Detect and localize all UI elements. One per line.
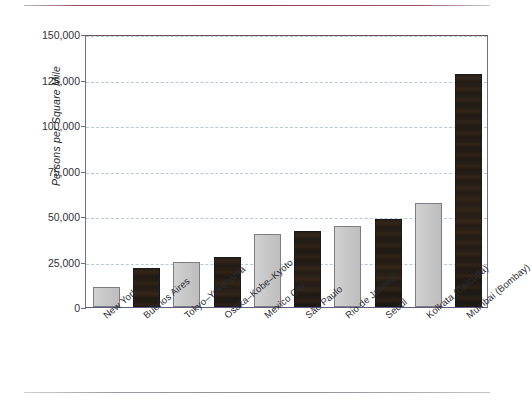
y-axis-tick-label: 150,000 <box>8 29 80 41</box>
y-axis-tick-mark <box>81 308 86 309</box>
gridline <box>86 82 487 83</box>
y-axis-tick-label: 100,000 <box>8 120 80 132</box>
bar <box>415 203 442 307</box>
gridline <box>86 127 487 128</box>
gridline <box>86 173 487 174</box>
y-axis-tick-label: 0 <box>8 302 80 314</box>
y-axis-tick-label: 125,000 <box>8 75 80 87</box>
y-axis-tick-label: 25,000 <box>8 257 80 269</box>
gridline <box>86 36 487 37</box>
y-axis-tick-label: 75,000 <box>8 166 80 178</box>
y-axis-tick-label: 50,000 <box>8 211 80 223</box>
